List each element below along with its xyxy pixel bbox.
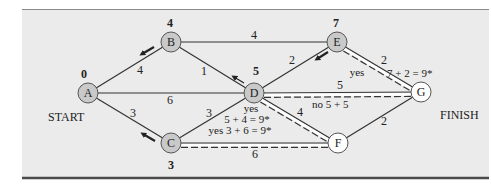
annotation-g-total: 7 + 2 = 9*	[387, 67, 432, 79]
finish-label: FINISH	[440, 108, 479, 122]
edge-weight-a-d: 6	[167, 93, 173, 107]
start-label: START	[48, 110, 85, 124]
annotation-cf-total: yes 3 + 6 = 9*	[209, 124, 272, 136]
edge-weight-f-g: 2	[381, 114, 387, 128]
node-label-e: E	[333, 35, 340, 49]
node-distance-c: 3	[168, 158, 174, 172]
node-label-d: D	[250, 86, 259, 100]
node-label-c: C	[167, 136, 175, 150]
edge-weight-c-f: 6	[252, 147, 258, 161]
node-distance-a: 0	[81, 67, 87, 81]
edge-weight-a-c: 3	[130, 106, 136, 120]
edge-weight-a-b: 4	[137, 63, 143, 77]
annotation-eg-yes: yes	[350, 66, 365, 78]
node-distance-b: 4	[167, 16, 173, 30]
node-label-g: G	[417, 85, 426, 99]
shortest-path-diagram: A0B4C3D5E7FG 463413625422yes7 + 2 = 9*no…	[0, 0, 491, 184]
edge-weight-e-g: 2	[381, 53, 387, 67]
node-label-b: B	[167, 35, 175, 49]
edge-weight-c-d: 3	[206, 106, 212, 120]
node-label-f: F	[335, 136, 342, 150]
node-label-a: A	[84, 86, 93, 100]
path-gap-d-g	[254, 94, 421, 95]
node-distance-d: 5	[253, 64, 259, 78]
edge-weight-b-d: 1	[201, 64, 207, 78]
network-canvas: A0B4C3D5E7FG 463413625422yes7 + 2 = 9*no…	[0, 0, 491, 184]
node-f: F	[328, 133, 348, 153]
node-distance-e: 7	[333, 16, 339, 30]
edge-weight-d-e: 2	[289, 53, 295, 67]
edge-weight-d-f: 4	[297, 105, 303, 119]
edge-weight-b-e: 4	[251, 28, 257, 42]
node-g: G	[411, 82, 431, 102]
edge-weight-d-g: 5	[337, 78, 343, 92]
annotation-dg-no: no 5 + 5	[312, 98, 349, 110]
